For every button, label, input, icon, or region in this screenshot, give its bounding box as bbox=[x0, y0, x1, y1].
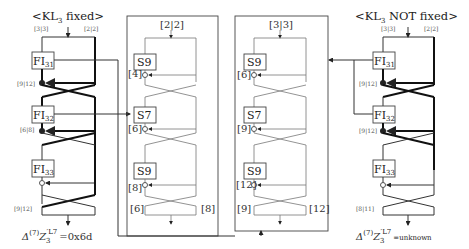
mid-left-bottom-r: [8] bbox=[201, 203, 215, 214]
mid-left-s7-label: S7 bbox=[137, 109, 152, 122]
mid-right-bottom-l: [9] bbox=[237, 203, 251, 214]
mid-right-bottom-r: [12] bbox=[309, 203, 330, 214]
right-top-label-l: [3|3] bbox=[381, 25, 395, 33]
mid-left-top-label: [2|2] bbox=[160, 19, 184, 31]
left-top-label-l: [3|3] bbox=[34, 25, 48, 33]
mid-right-s9a-diff: [6] bbox=[237, 69, 251, 80]
right-fi32-diff: [9|12] bbox=[359, 127, 377, 135]
left-xor-3 bbox=[40, 181, 45, 186]
right-top-label-r: [2|2] bbox=[424, 25, 438, 33]
right-fi31-diff: [9|12] bbox=[359, 80, 377, 88]
right-result: Δ(7)Z3′L7=unknown bbox=[355, 228, 432, 245]
mid-right-s9b-diff: [12] bbox=[236, 179, 257, 190]
mid-right-s7-diff: [9] bbox=[237, 123, 251, 134]
middle-right-panel: [3|3] S9 [6] S7 [9] S9 [12] bbox=[235, 16, 330, 236]
right-panel: <KL3 NOT fixed> [3|3] [2|2] FI31 [9|12] … bbox=[329, 9, 458, 245]
left-panel: <KL3 fixed> [3|3] [2|2] FI31 [9|12] FI32… bbox=[14, 9, 130, 245]
right-bottom-label: [8|11] bbox=[356, 205, 374, 213]
left-bottom-label: [9|12] bbox=[14, 205, 32, 213]
fi-differential-diagram: <KL3 fixed> [3|3] [2|2] FI31 [9|12] FI32… bbox=[0, 0, 469, 249]
left-fi32-diff: [6|8] bbox=[20, 126, 34, 134]
mid-left-s7-diff: [6] bbox=[128, 123, 142, 134]
left-title: <KL3 fixed> bbox=[32, 9, 104, 25]
mid-left-s9b-label: S9 bbox=[137, 165, 152, 178]
left-fi31-diff: [9|12] bbox=[17, 80, 35, 88]
left-top-label-r: [2|2] bbox=[84, 25, 98, 33]
left-result: Δ(7)Z3′L7=0x6d bbox=[21, 228, 93, 245]
mid-right-s7-label: S7 bbox=[247, 109, 262, 122]
mid-left-s9b-diff: [8] bbox=[128, 182, 142, 193]
middle-left-panel: [2|2] S9 [4] S7 [6] S9 [8] bbox=[118, 16, 235, 236]
mid-left-bottom-l: [6] bbox=[130, 203, 144, 214]
right-title: <KL3 NOT fixed> bbox=[355, 9, 458, 25]
mid-right-top-label: [3|3] bbox=[269, 19, 293, 31]
mid-left-s9a-diff: [4] bbox=[128, 68, 142, 79]
mid-right-s9b-label: S9 bbox=[247, 165, 262, 178]
mid-right-s9a-label: S9 bbox=[247, 56, 262, 69]
